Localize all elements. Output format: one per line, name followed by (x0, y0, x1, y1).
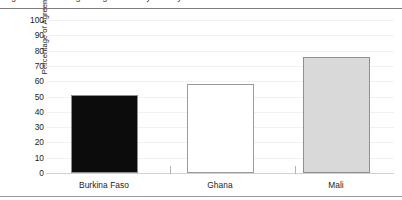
category-separator (170, 166, 171, 174)
bar-mali (303, 57, 370, 173)
y-axis-tick-label: 30 (16, 123, 44, 131)
y-axis-tick-label: 10 (16, 153, 44, 161)
y-axis-tick-label: 100 (16, 16, 44, 24)
x-axis-baseline (46, 173, 394, 174)
x-axis-tick-label: Burkina Faso (46, 180, 162, 190)
y-axis-tick-label: 80 (16, 46, 44, 54)
x-axis-tick-label: Ghana (162, 180, 278, 190)
table-rule-bottom (0, 196, 402, 197)
y-axis-tick-label: 0 (16, 169, 44, 177)
y-axis-tick-label: 50 (16, 92, 44, 100)
x-axis-tick-label: Mali (278, 180, 394, 190)
bar-burkina-faso (71, 95, 138, 173)
y-axis-tick-label: 90 (16, 31, 44, 39)
category-separator (295, 166, 296, 174)
table-rule-top (0, 8, 402, 9)
gridline (46, 35, 394, 36)
y-axis-tick-label: 60 (16, 77, 44, 85)
figure-container: Figure 2. Percentage of agreement by cou… (0, 0, 402, 200)
y-axis-tick-label: 40 (16, 108, 44, 116)
y-axis-tick-label: 70 (16, 62, 44, 70)
figure-caption: Figure 2. Percentage of agreement by cou… (0, 0, 402, 3)
y-axis-tick-label: 20 (16, 138, 44, 146)
gridline (46, 51, 394, 52)
gridline (46, 20, 394, 21)
bar-ghana (187, 84, 254, 173)
plot-area (46, 20, 394, 173)
y-axis-tick-labels: 1009080706050403020100 (8, 0, 44, 200)
